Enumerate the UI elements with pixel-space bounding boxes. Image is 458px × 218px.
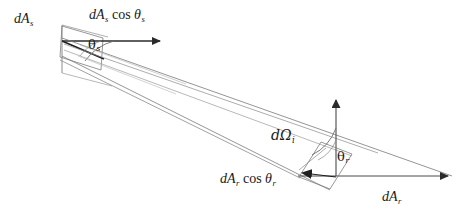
source-lower-edge-line <box>62 73 112 86</box>
receiver-area-label: dAr <box>382 190 401 204</box>
source-area-label: dAs <box>14 12 33 26</box>
radiometry-diagram: dAs dAs cos θs θs dΩi dAr cos θr θr dAr <box>0 0 458 218</box>
source-projected-operator: cos <box>112 7 131 22</box>
receiver-projected-sub: r <box>236 178 239 188</box>
beam-ray-center <box>64 50 352 156</box>
source-angle-symbol: θ <box>88 37 96 52</box>
solid-angle-base: dΩ <box>271 127 292 143</box>
solid-angle-label: dΩi <box>271 128 295 142</box>
beam-ray-bottom <box>60 60 300 178</box>
receiver-projected-area-label: dAr cos θr <box>220 172 276 186</box>
receiver-projected-angle: θ <box>265 171 272 186</box>
beam-rays-group <box>60 38 452 190</box>
source-projected-angle: θ <box>134 7 141 22</box>
source-projected-base: dA <box>89 7 105 22</box>
source-projected-angle-sub: s <box>142 14 145 24</box>
beam-ray-lower-mid <box>62 56 330 190</box>
receiver-projected-angle-sub: r <box>273 178 276 188</box>
source-angle-sub: s <box>96 44 100 53</box>
receiver-projected-base: dA <box>220 171 236 186</box>
receiver-area-base: dA <box>382 189 398 204</box>
source-projected-area-label: dAs cos θs <box>89 8 145 22</box>
solid-angle-sub: i <box>292 135 295 145</box>
beam-ray-upper-mid <box>64 44 378 153</box>
beam-ray-top <box>62 38 452 176</box>
receiver-angle-sub: r <box>345 156 349 165</box>
source-area-base: dA <box>14 11 30 26</box>
receiver-angle-label: θr <box>337 150 349 163</box>
source-area-sub: s <box>30 18 33 28</box>
source-patch-group <box>60 25 160 86</box>
source-upper-edge-line <box>62 25 108 37</box>
receiver-area-sub: r <box>398 196 401 206</box>
receiver-projected-operator: cos <box>243 171 262 186</box>
source-angle-label: θs <box>88 38 100 51</box>
receiver-projection-leader <box>299 148 326 170</box>
source-projected-sub: s <box>105 14 108 24</box>
receiver-angle-symbol: θ <box>337 149 345 164</box>
